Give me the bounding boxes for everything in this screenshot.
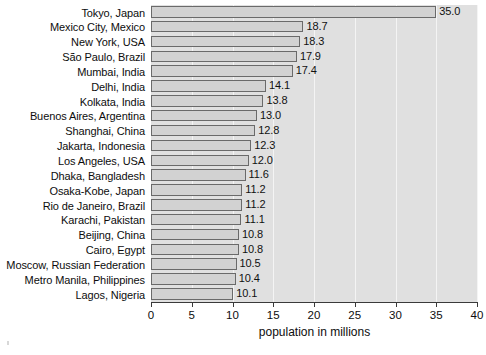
x-tick-mark xyxy=(314,303,315,307)
bar-row: 35.0 xyxy=(151,5,477,20)
x-tick-mark xyxy=(192,303,193,307)
category-label: Tokyo, Japan xyxy=(81,6,145,21)
x-tick-mark xyxy=(273,303,274,307)
bar xyxy=(151,6,436,18)
x-tick-label: 5 xyxy=(189,308,195,322)
x-tick-label: 30 xyxy=(389,308,402,322)
corner-artifact-mark xyxy=(7,341,9,345)
bar-value-label: 11.2 xyxy=(245,198,265,212)
bar xyxy=(151,110,257,122)
bar-row: 13.8 xyxy=(151,94,477,109)
bar-row: 18.3 xyxy=(151,35,477,50)
category-label: Rio de Janeiro, Brazil xyxy=(43,199,145,214)
bar-row: 10.1 xyxy=(151,287,477,302)
category-label: New York, USA xyxy=(71,35,145,50)
bar-value-label: 13.8 xyxy=(266,94,287,108)
bar-row: 13.0 xyxy=(151,109,477,124)
bar xyxy=(151,288,233,300)
bar xyxy=(151,51,297,63)
category-label: Mexico City, Mexico xyxy=(50,20,145,35)
x-tick-label: 35 xyxy=(430,308,443,322)
category-label: Moscow, Russian Federation xyxy=(6,258,145,273)
bar-row: 11.2 xyxy=(151,198,477,213)
bar xyxy=(151,244,239,256)
bar-row: 10.8 xyxy=(151,243,477,258)
plot-area: 35.018.718.317.917.414.113.813.012.812.3… xyxy=(151,5,477,302)
category-axis-labels: Tokyo, JapanMexico City, MexicoNew York,… xyxy=(0,5,148,302)
bar-row: 12.8 xyxy=(151,124,477,139)
bar-value-label: 12.0 xyxy=(252,154,273,168)
category-label: Kolkata, India xyxy=(80,95,145,110)
bar-row: 12.0 xyxy=(151,154,477,169)
bar xyxy=(151,229,239,241)
bar-value-label: 12.3 xyxy=(254,139,275,153)
bar xyxy=(151,95,263,107)
category-label: Mumbai, India xyxy=(77,65,145,80)
bar-row: 11.2 xyxy=(151,183,477,198)
x-tick-mark xyxy=(151,303,152,307)
bar-row: 10.4 xyxy=(151,272,477,287)
x-tick-mark xyxy=(233,303,234,307)
bar-value-label: 18.7 xyxy=(306,20,327,34)
bar-value-label: 13.0 xyxy=(260,109,281,123)
category-label: Shanghai, China xyxy=(65,124,145,139)
bar xyxy=(151,184,242,196)
x-tick-label: 15 xyxy=(267,308,280,322)
x-tick-label: 10 xyxy=(226,308,239,322)
bar-value-label: 17.9 xyxy=(300,50,321,64)
bar-row: 12.3 xyxy=(151,139,477,154)
bar-row: 17.4 xyxy=(151,64,477,79)
category-label: Delhi, India xyxy=(91,80,145,95)
bar-value-label: 10.8 xyxy=(242,243,263,257)
category-label: Cairo, Egypt xyxy=(86,243,145,258)
bar-row: 11.1 xyxy=(151,213,477,228)
x-tick-label: 20 xyxy=(308,308,321,322)
x-tick-mark xyxy=(436,303,437,307)
category-label: São Paulo, Brazil xyxy=(62,50,145,65)
x-tick-mark xyxy=(355,303,356,307)
bar xyxy=(151,169,246,181)
category-label: Jakarta, Indonesia xyxy=(57,139,145,154)
bar-value-label: 17.4 xyxy=(296,64,317,78)
bar-value-label: 11.6 xyxy=(249,168,269,182)
bar xyxy=(151,21,303,33)
bar-row: 11.6 xyxy=(151,168,477,183)
category-label: Los Angeles, USA xyxy=(58,154,145,169)
bar-value-label: 10.8 xyxy=(242,228,263,242)
category-label: Dhaka, Bangladesh xyxy=(51,169,145,184)
category-label: Karachi, Pakistan xyxy=(61,213,145,228)
bar-value-label: 18.3 xyxy=(303,35,324,49)
bar-row: 10.8 xyxy=(151,228,477,243)
bar-value-label: 11.2 xyxy=(245,183,265,197)
bar-value-label: 12.8 xyxy=(258,124,279,138)
gridline xyxy=(477,5,478,302)
category-label: Osaka-Kobe, Japan xyxy=(49,184,145,199)
bar-row: 17.9 xyxy=(151,50,477,65)
bar-value-label: 10.4 xyxy=(239,272,260,286)
bar xyxy=(151,155,249,167)
bar-value-label: 14.1 xyxy=(269,79,290,93)
bar xyxy=(151,273,236,285)
bar xyxy=(151,140,251,152)
x-tick-label: 0 xyxy=(148,308,154,322)
x-tick-mark xyxy=(396,303,397,307)
bar xyxy=(151,125,255,137)
bar xyxy=(151,80,266,92)
category-label: Metro Manila, Philippines xyxy=(25,273,145,288)
x-axis-title: population in millions xyxy=(151,325,478,339)
bar-value-label: 11.1 xyxy=(244,213,264,227)
bar xyxy=(151,65,293,77)
bar xyxy=(151,36,300,48)
bar-value-label: 10.1 xyxy=(236,287,257,301)
bar-row: 14.1 xyxy=(151,79,477,94)
bar-value-label: 35.0 xyxy=(439,5,460,19)
category-label: Beijing, China xyxy=(79,228,145,243)
bar-row: 10.5 xyxy=(151,257,477,272)
category-label: Lagos, Nigeria xyxy=(75,288,145,303)
bar-row: 18.7 xyxy=(151,20,477,35)
bar xyxy=(151,199,242,211)
bar xyxy=(151,258,237,270)
bar xyxy=(151,214,241,226)
x-tick-mark xyxy=(477,303,478,307)
bar-value-label: 10.5 xyxy=(240,257,261,271)
